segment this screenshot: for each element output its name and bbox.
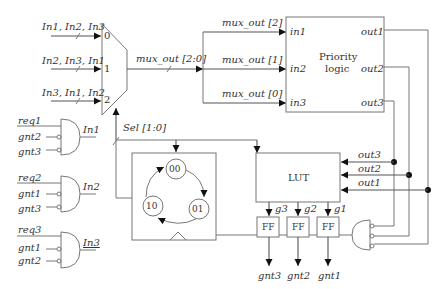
request-gate-3: req3 gnt1 gnt2 In3 [17,224,100,268]
priority-logic-block: in1 in2 in3 Priority logic out1 out2 out… [286,17,384,112]
multiplexer: 0 1 2 [102,24,127,115]
gate-out-in2: In2 [82,181,100,192]
svg-text:FF: FF [292,222,305,232]
request-gate-1: req1 gnt2 gnt3 In1 [17,115,100,157]
gnt2-output: gnt2 [287,270,310,281]
state-01: 01 [192,204,203,214]
select-label: Sel [1:0] [123,122,166,133]
lut-out-g1: g1 [334,203,347,214]
mux-input-1: In2, In3, In1 [41,55,105,72]
svg-text:mux_out [0]: mux_out [0] [222,88,282,100]
gate-out-in3: In3 [82,237,100,248]
lut-in-out2: out2 [358,163,381,174]
priority-in2: in2 [290,63,306,74]
mux-output-bus: mux_out [2:0] [127,32,206,103]
priority-title-2: logic [325,63,350,74]
svg-text:req1: req1 [18,115,41,126]
gnt3-output: gnt3 [258,270,281,281]
lut-in-out1: out1 [358,177,381,188]
flipflop-2: g2 FF gnt2 [287,202,317,281]
lut-label: LUT [288,172,310,183]
svg-text:In1, In2, In3: In1, In2, In3 [41,21,105,32]
mux-out-label: mux_out [2:0] [136,53,206,65]
flipflop-1: g1 FF gnt1 [317,202,347,281]
svg-text:gnt3: gnt3 [18,146,41,157]
svg-text:mux_out [1]: mux_out [1] [222,54,282,66]
priority-out3: out3 [361,97,384,108]
lut-out-g3: g3 [275,203,288,214]
priority-out2: out2 [361,63,384,74]
lut-block: LUT [256,153,340,202]
gate-out-in1: In1 [82,124,100,135]
priority-in3: in3 [290,97,306,108]
lut-out-g2: g2 [304,203,317,214]
flipflop-3: g3 FF gnt3 [257,202,288,281]
svg-text:gnt1: gnt1 [18,188,41,199]
svg-text:req3: req3 [18,224,41,235]
priority-out1: out1 [361,26,384,37]
branch-mux-out-0: mux_out [0] [203,88,286,103]
svg-text:req2: req2 [18,172,41,183]
svg-text:gnt3: gnt3 [18,203,41,214]
svg-text:FF: FF [262,222,275,232]
svg-text:In3, In1, In2: In3, In1, In2 [41,87,105,98]
priority-in1: in1 [290,26,306,37]
mux-input-0: In1, In2, In3 [41,21,105,39]
svg-text:In2, In3, In1: In2, In3, In1 [41,55,105,66]
branch-mux-out-1: mux_out [1] [203,54,286,69]
gnt1-output: gnt1 [318,270,341,281]
svg-text:mux_out [2]: mux_out [2] [222,17,282,29]
svg-text:gnt2: gnt2 [18,131,41,142]
svg-text:gnt2: gnt2 [18,255,41,266]
round-robin-arbiter-diagram: 0 1 2 In1, In2, In3 In2, In3, In1 In3, I… [0,0,445,289]
request-gate-2: req2 gnt1 gnt3 In2 [17,172,100,214]
priority-title-1: Priority [319,51,358,62]
lut-in-out3: out3 [358,149,381,160]
branch-mux-out-2: mux_out [2] [203,17,286,32]
svg-text:gnt1: gnt1 [18,242,41,253]
svg-text:FF: FF [322,222,335,232]
mux-input-2: In3, In1, In2 [41,87,105,104]
ring-counter: 00 01 10 [132,153,216,240]
state-00: 00 [169,164,181,174]
state-10: 10 [146,201,158,211]
